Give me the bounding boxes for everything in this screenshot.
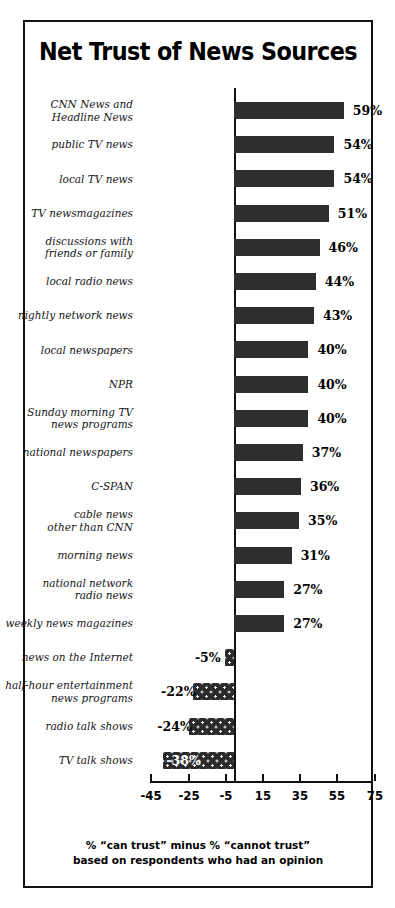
bar bbox=[234, 102, 344, 119]
chart-row: national network radio news27% bbox=[25, 581, 371, 598]
x-axis-tick-label: 15 bbox=[255, 788, 271, 803]
category-label: news on the Internet bbox=[0, 651, 133, 664]
bar bbox=[193, 683, 234, 700]
category-label: NPR bbox=[0, 378, 133, 391]
bar bbox=[234, 444, 303, 461]
bar bbox=[234, 341, 308, 358]
bar bbox=[234, 478, 301, 495]
x-axis-tick-label: -25 bbox=[178, 788, 199, 803]
x-axis-tick-mark bbox=[150, 774, 152, 781]
bar bbox=[234, 239, 320, 256]
category-label: local TV news bbox=[0, 173, 133, 186]
bar-value-label: 51% bbox=[338, 206, 367, 221]
bar-value-label: 44% bbox=[325, 274, 354, 289]
bar-value-label: -22% bbox=[161, 684, 189, 699]
chart-row: morning news31% bbox=[25, 547, 371, 564]
chart-frame: Net Trust of News Sources CNN News and H… bbox=[23, 20, 373, 888]
x-axis-tick-mark bbox=[299, 774, 301, 781]
zero-axis-line bbox=[234, 88, 236, 783]
bar-value-label: 27% bbox=[293, 582, 322, 597]
footnote-line-1: % “can trust” minus % “cannot trust” bbox=[34, 838, 363, 853]
bar bbox=[234, 547, 292, 564]
bar-value-label: 54% bbox=[343, 137, 372, 152]
bar-value-label: 35% bbox=[308, 513, 337, 528]
bar-value-label: 46% bbox=[329, 240, 358, 255]
category-label: local radio news bbox=[0, 275, 133, 288]
bar-value-label: 43% bbox=[323, 308, 352, 323]
chart-row: news on the Internet-5% bbox=[25, 649, 371, 666]
chart-row: national newspapers37% bbox=[25, 444, 371, 461]
chart-row: half-hour entertainment news programs-22… bbox=[25, 683, 371, 700]
chart-row: local radio news44% bbox=[25, 273, 371, 290]
category-label: national network radio news bbox=[0, 577, 133, 602]
category-label: radio talk shows bbox=[0, 720, 133, 733]
chart-row: nightly network news43% bbox=[25, 307, 371, 324]
x-axis-tick-mark bbox=[374, 774, 376, 781]
category-label: cable news other than CNN bbox=[0, 508, 133, 533]
x-axis-tick-label: 35 bbox=[292, 788, 308, 803]
x-axis-tick-mark bbox=[188, 774, 190, 781]
category-label: half-hour entertainment news programs bbox=[0, 679, 133, 704]
category-label: public TV news bbox=[0, 138, 133, 151]
chart-row: Sunday morning TV news programs40% bbox=[25, 410, 371, 427]
bar-value-label: 31% bbox=[301, 548, 330, 563]
category-label: TV newsmagazines bbox=[0, 207, 133, 220]
chart-title: Net Trust of News Sources bbox=[37, 38, 359, 66]
chart-footnote: % “can trust” minus % “cannot trust” bas… bbox=[34, 838, 363, 868]
bar-value-label: 40% bbox=[317, 377, 346, 392]
footnote-line-2: based on respondents who had an opinion bbox=[34, 853, 363, 868]
chart-row: NPR40% bbox=[25, 376, 371, 393]
category-label: local newspapers bbox=[0, 344, 133, 357]
category-label: morning news bbox=[0, 549, 133, 562]
category-label: discussions with friends or family bbox=[0, 235, 133, 260]
bar bbox=[234, 410, 308, 427]
bar bbox=[234, 376, 308, 393]
chart-row: local newspapers40% bbox=[25, 341, 371, 358]
bar bbox=[189, 718, 234, 735]
bar bbox=[234, 581, 284, 598]
chart-row: TV talk shows-38% bbox=[25, 752, 371, 769]
chart-row: public TV news54% bbox=[25, 136, 371, 153]
bar bbox=[225, 649, 234, 666]
category-label: C-SPAN bbox=[0, 480, 133, 493]
bar-value-label: 59% bbox=[353, 103, 382, 118]
category-label: TV talk shows bbox=[0, 754, 133, 767]
x-axis-tick-mark bbox=[336, 774, 338, 781]
x-axis-tick-mark bbox=[262, 774, 264, 781]
bar-value-label: 40% bbox=[317, 342, 346, 357]
category-label: weekly news magazines bbox=[0, 617, 133, 630]
bar-value-label: -24% bbox=[157, 719, 185, 734]
bar bbox=[234, 273, 316, 290]
bar bbox=[234, 512, 299, 529]
bar bbox=[234, 205, 329, 222]
chart-row: CNN News and Headline News59% bbox=[25, 102, 371, 119]
chart-row: local TV news54% bbox=[25, 170, 371, 187]
chart-row: radio talk shows-24% bbox=[25, 718, 371, 735]
bar-value-label: 27% bbox=[293, 616, 322, 631]
bar bbox=[234, 136, 334, 153]
category-label: Sunday morning TV news programs bbox=[0, 406, 133, 431]
category-label: CNN News and Headline News bbox=[0, 98, 133, 123]
x-axis-tick-label: -45 bbox=[141, 788, 162, 803]
plot-area: CNN News and Headline News59%public TV n… bbox=[25, 88, 371, 788]
bar bbox=[234, 615, 284, 632]
chart-row: weekly news magazines27% bbox=[25, 615, 371, 632]
bar-value-label: 54% bbox=[343, 171, 372, 186]
bar-value-label: 37% bbox=[312, 445, 341, 460]
bar-value-label: 36% bbox=[310, 479, 339, 494]
bar bbox=[234, 307, 314, 324]
chart-row: C-SPAN36% bbox=[25, 478, 371, 495]
x-axis-tick-label: 75 bbox=[366, 788, 382, 803]
x-axis-tick-label: -5 bbox=[219, 788, 232, 803]
chart-row: discussions with friends or family46% bbox=[25, 239, 371, 256]
bar-value-label: -5% bbox=[193, 650, 221, 665]
bar-value-label: -38% bbox=[166, 753, 200, 768]
category-label: nightly network news bbox=[0, 309, 133, 322]
bar bbox=[234, 170, 334, 187]
x-axis-line bbox=[150, 781, 373, 783]
bar-value-label: 40% bbox=[317, 411, 346, 426]
chart-row: TV newsmagazines51% bbox=[25, 205, 371, 222]
x-axis-tick-label: 55 bbox=[329, 788, 345, 803]
chart-row: cable news other than CNN35% bbox=[25, 512, 371, 529]
category-label: national newspapers bbox=[0, 446, 133, 459]
